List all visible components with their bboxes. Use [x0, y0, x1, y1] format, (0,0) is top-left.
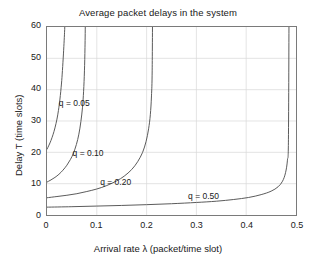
x-tick-label: 0.3 [177, 220, 217, 230]
x-axis-title: Arrival rate λ (packet/time slot) [0, 243, 316, 254]
y-tick-label: 60 [9, 20, 41, 30]
curve-q-0-20 [47, 27, 153, 198]
y-tick-label: 10 [9, 178, 41, 188]
curve-q-0-50 [47, 27, 289, 207]
curve-label-q-0-05: q = 0.05 [59, 98, 90, 108]
x-tick-label: 0.4 [227, 220, 267, 230]
y-tick-label: 0 [9, 210, 41, 220]
x-tick-label: 0.2 [126, 220, 166, 230]
y-tick-label: 40 [9, 83, 41, 93]
chart-figure: Average packet delays in the system 0102… [0, 0, 316, 270]
y-axis-title: Delay T (time slots) [13, 95, 24, 176]
y-tick-label: 50 [9, 52, 41, 62]
x-tick-label: 0 [26, 220, 66, 230]
plot-canvas [47, 27, 296, 215]
plot-area [46, 26, 297, 216]
data-curves [47, 27, 289, 207]
chart-title: Average packet delays in the system [0, 7, 316, 18]
curve-label-q-0-10: q = 0.10 [73, 148, 104, 158]
curve-q-0-05 [47, 27, 66, 149]
curve-label-q-0-20: q = 0.20 [100, 177, 131, 187]
x-tick-label: 0.1 [76, 220, 116, 230]
curve-label-q-0-50: q = 0.50 [188, 191, 219, 201]
x-tick-label: 0.5 [277, 220, 316, 230]
